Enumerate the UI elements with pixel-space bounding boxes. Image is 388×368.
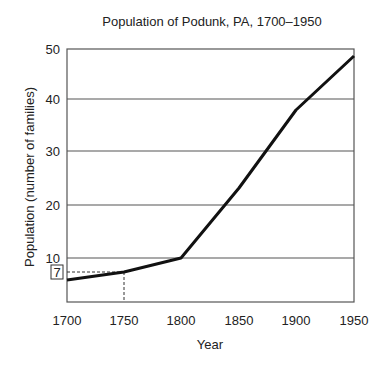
svg-text:1900: 1900: [282, 313, 311, 328]
svg-text:30: 30: [46, 144, 60, 159]
x-tick-labels: 1700 1750 1800 1850 1900 1950: [53, 313, 369, 328]
y-tick-labels: 50 40 30 20 10: [46, 42, 60, 266]
svg-text:1950: 1950: [340, 313, 369, 328]
x-axis-label: Year: [197, 337, 224, 352]
svg-text:10: 10: [46, 251, 60, 266]
svg-text:1800: 1800: [167, 313, 196, 328]
svg-text:40: 40: [46, 92, 60, 107]
svg-text:50: 50: [46, 42, 60, 57]
population-line: [67, 56, 354, 280]
svg-text:7: 7: [53, 265, 60, 280]
plot-frame: [67, 49, 354, 302]
svg-text:1750: 1750: [110, 313, 139, 328]
svg-text:20: 20: [46, 198, 60, 213]
line-chart: 50 40 30 20 10 7 1700 1750 1800 1850 190…: [0, 0, 388, 368]
svg-text:1850: 1850: [225, 313, 254, 328]
svg-text:1700: 1700: [53, 313, 82, 328]
annotation-7: 7: [51, 265, 124, 302]
y-axis-label: Population (number of families): [22, 87, 37, 267]
gridlines: [67, 99, 354, 258]
